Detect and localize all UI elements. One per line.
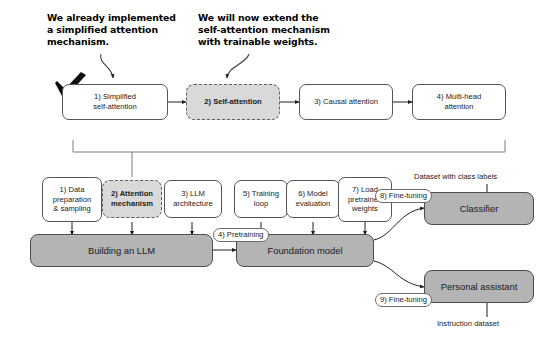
edge-label-pretraining[interactable]: 4) Pretraining	[213, 228, 269, 242]
step-box-llm-architecture[interactable]: 3) LLM architecture	[164, 180, 222, 218]
edge-label-finetuning-assistant[interactable]: 9) Fine-tuning	[375, 293, 432, 307]
stage-box-multi-head-attention[interactable]: 4) Multi-head attention	[412, 84, 506, 120]
callout-extend: We will now extend the self-attention me…	[198, 12, 358, 48]
diagram-canvas: We already implemented a simplified atte…	[0, 0, 560, 339]
stage-box-self-attention[interactable]: 2) Self-attention	[186, 84, 280, 120]
main-box-classifier[interactable]: Classifier	[424, 192, 534, 225]
grouping-bracket	[73, 140, 505, 152]
callout-arrow-right	[227, 54, 249, 78]
stage-box-causal-attention[interactable]: 3) Causal attention	[299, 84, 393, 120]
main-box-personal-assistant[interactable]: Personal assistant	[424, 270, 534, 303]
step-box-model-evaluation[interactable]: 6) Model evaluation	[286, 180, 340, 218]
callout-implemented: We already implemented a simplified atte…	[47, 12, 197, 48]
edge-label-finetuning-classifier[interactable]: 8) Fine-tuning	[375, 189, 432, 203]
stage-box-simplified-self-attention[interactable]: 1) Simplified self-attention	[62, 84, 168, 120]
dataset-label-class-labels: Dataset with class labels	[414, 172, 497, 182]
dataset-label-instruction: Instruction dataset	[437, 319, 499, 329]
step-box-training-loop[interactable]: 5) Training loop	[234, 180, 288, 218]
main-box-building-an-llm[interactable]: Building an LLM	[30, 234, 213, 267]
step-box-data-preparation[interactable]: 1) Data preparation & sampling	[42, 177, 102, 222]
callout-arrow-left	[101, 54, 113, 78]
edge-foundation-assistant	[374, 261, 424, 287]
step-box-attention-mechanism[interactable]: 2) Attention mechanism	[102, 180, 162, 218]
